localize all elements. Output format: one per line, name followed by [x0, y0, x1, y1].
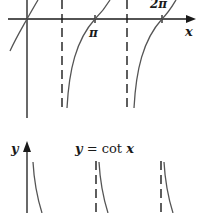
graph-title: y = cot x: [74, 141, 134, 156]
tan-branch-right1: [67, 0, 110, 108]
cot-branch-2: [99, 162, 108, 213]
tan-branch-center: [10, 0, 38, 51]
graph-canvas: π 2π x y y = cot x: [0, 0, 202, 213]
title-var: x: [125, 141, 134, 156]
y-axis-arrow-icon: [23, 141, 31, 152]
cot-graph: y y = cot x: [10, 141, 173, 213]
y-axis-label: y: [10, 141, 20, 156]
cot-branch-3: [164, 162, 173, 213]
x-axis-arrow-icon: [186, 15, 196, 23]
cot-branch-1: [33, 162, 42, 213]
title-eq: = cot: [83, 141, 127, 156]
label-2pi: 2π: [149, 0, 167, 11]
tan-cot-graph-figure: π 2π x y y = cot x: [0, 0, 202, 213]
label-pi: π: [88, 26, 98, 40]
tan-branch-right2: [134, 0, 176, 108]
x-axis-label: x: [184, 24, 193, 39]
tan-graph: π 2π x: [8, 0, 196, 118]
